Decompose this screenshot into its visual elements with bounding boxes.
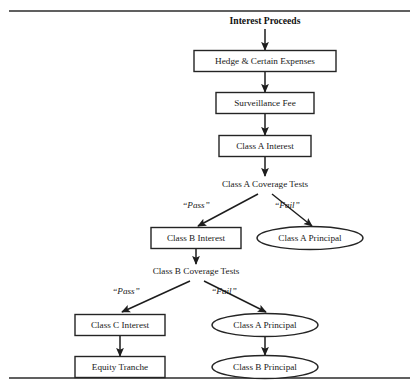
flowchart-figure: Interest ProceedsHedge & Certain Expense… — [0, 0, 419, 387]
node-label-class-b-coverage-tests: Class B Coverage Tests — [153, 266, 240, 276]
node-class-b-coverage-tests: Class B Coverage Tests — [153, 266, 240, 276]
node-class-b-interest: Class B Interest — [151, 228, 241, 249]
node-label-surveillance-fee: Surveillance Fee — [234, 98, 295, 108]
edge-label-e-covB-pass: “Pass” — [112, 286, 140, 296]
node-class-c-interest: Class C Interest — [75, 315, 165, 336]
edge-label-e-covB-fail: “Fail” — [211, 286, 237, 296]
node-label-equity-tranche: Equity Tranche — [92, 362, 148, 372]
flowchart-canvas: Interest ProceedsHedge & Certain Expense… — [0, 0, 419, 387]
node-label-class-a-interest: Class A Interest — [236, 141, 294, 151]
nodes-layer: Interest ProceedsHedge & Certain Expense… — [75, 15, 363, 379]
node-class-a-principal-2: Class A Principal — [212, 314, 318, 337]
node-label-class-a-principal-2: Class A Principal — [233, 320, 297, 330]
node-class-a-interest: Class A Interest — [219, 136, 311, 157]
node-class-a-coverage-tests: Class A Coverage Tests — [222, 179, 309, 189]
node-label-class-c-interest: Class C Interest — [91, 320, 150, 330]
node-label-interest-proceeds: Interest Proceeds — [230, 15, 301, 26]
node-class-b-principal: Class B Principal — [212, 356, 318, 379]
node-hedge-certain-expenses: Hedge & Certain Expenses — [194, 51, 336, 72]
edge-label-e-covA-fail: “Fail” — [274, 200, 300, 210]
node-label-hedge-certain-expenses: Hedge & Certain Expenses — [215, 56, 315, 66]
edge-label-e-covA-pass: “Pass” — [182, 200, 210, 210]
node-class-a-principal-1: Class A Principal — [257, 227, 363, 250]
node-label-class-a-principal-1: Class A Principal — [278, 233, 342, 243]
node-label-class-b-interest: Class B Interest — [167, 233, 226, 243]
edges-layer — [120, 29, 312, 356]
node-label-class-a-coverage-tests: Class A Coverage Tests — [222, 179, 309, 189]
node-equity-tranche: Equity Tranche — [75, 357, 165, 378]
node-surveillance-fee: Surveillance Fee — [216, 93, 314, 114]
node-label-class-b-principal: Class B Principal — [233, 362, 297, 372]
node-interest-proceeds: Interest Proceeds — [230, 15, 301, 26]
